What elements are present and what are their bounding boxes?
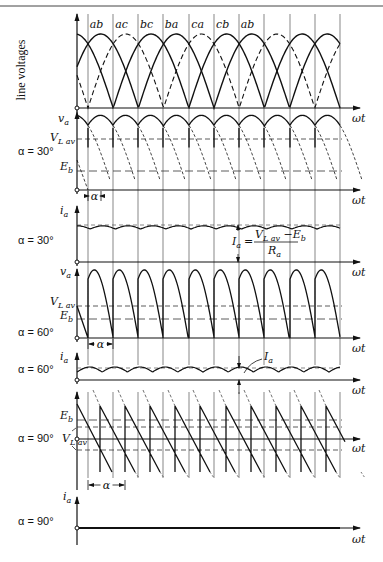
- formula-lhs: Ia: [231, 235, 241, 250]
- va-alpha-30-panel: ωtvaVL avEbα = 30°α: [18, 112, 366, 207]
- eb-label: Eb: [59, 409, 73, 424]
- ia-alpha-60-panel: ωtiaα = 60°Ia: [18, 350, 366, 397]
- formula-numerator: VL av −Eb: [255, 228, 306, 243]
- alpha-30-label: α = 30°: [18, 145, 54, 157]
- va90-dashed-lead: [193, 390, 200, 406]
- alpha-60-marker: α: [97, 338, 105, 351]
- origin-dot: [75, 378, 79, 382]
- va90-dashed-lead: [93, 390, 100, 406]
- va90-dashed-lead: [143, 390, 150, 406]
- formula-equals: =: [244, 235, 253, 248]
- va90-dashed-lead: [168, 390, 175, 406]
- va30-dashed-tail: [214, 125, 236, 180]
- origin-dot: [75, 106, 79, 110]
- alpha-90-label: α = 90°: [18, 432, 54, 444]
- alpha-30-marker: α: [91, 190, 99, 203]
- va90-dashed-lead: [244, 390, 251, 406]
- line-voltage-curve: [77, 34, 340, 108]
- ia-label: ia: [60, 350, 69, 365]
- va90-dashed-lead: [319, 390, 326, 406]
- vlav-label: VL av: [50, 295, 76, 310]
- converter-waveform-figure: ωtline voltagesabacbcbacacbab ωtvaVL avE…: [0, 0, 383, 562]
- waveform-svg: ωtline voltagesabacbcbacacbab ωtvaVL avE…: [0, 0, 383, 562]
- va90-dashed-lead: [219, 390, 226, 406]
- va90-dashed-lead: [118, 390, 125, 406]
- va90-dashed-lead: [294, 390, 301, 406]
- phase-label-ab: ab: [241, 18, 255, 31]
- vlav-label: VL av: [50, 131, 76, 146]
- phase-label-ba: ba: [165, 18, 179, 31]
- va90-dashed-tail: [235, 472, 239, 478]
- omega-t-label: ωt: [352, 112, 366, 125]
- formula-denominator: Ra: [267, 244, 281, 259]
- va90-dashed-tail: [210, 472, 214, 478]
- origin-dot: [75, 526, 79, 530]
- va-alpha-90-panel: ωtEbα = 90°VL avα: [18, 390, 366, 492]
- va90-dashed-tail: [261, 472, 265, 478]
- alpha-60-label: α = 60°: [18, 326, 54, 338]
- ia-leader: [244, 359, 262, 373]
- va30-dashed-tail: [315, 125, 337, 180]
- ia-label: ia: [60, 204, 69, 219]
- va90-dashed-lead: [269, 390, 276, 406]
- omega-t-label: ωt: [352, 266, 366, 279]
- origin-dot: [75, 188, 79, 192]
- ia-alpha-30-panel: ωtiaα = 30°Ia=VL av −EbRa: [18, 204, 366, 279]
- alpha-30-ia-label: α = 30°: [18, 234, 54, 246]
- omega-t-label: ωt: [352, 533, 366, 546]
- alpha-60-ia-label: α = 60°: [18, 363, 54, 375]
- alpha-90-marker: α: [103, 479, 111, 492]
- ia-alpha-90-panel: ωtiaα = 90°: [18, 490, 366, 546]
- omega-t-label: ωt: [352, 342, 366, 355]
- phase-label-ab: ab: [90, 18, 104, 31]
- va30-dashed-tail: [340, 125, 362, 180]
- vlav-leader-up: [72, 428, 76, 431]
- omega-t-label: ωt: [352, 442, 366, 455]
- va90-waveform: [77, 404, 345, 472]
- va30-dashed-tail: [264, 125, 286, 180]
- ia-label: ia: [63, 490, 72, 505]
- phase-label-ca: ca: [191, 18, 204, 31]
- line-voltages-panel: ωtline voltagesabacbcbacacbab: [14, 14, 366, 125]
- va60-waveform: [77, 270, 340, 338]
- va30-dashed-tail: [290, 125, 312, 180]
- line-voltages-label: line voltages: [14, 39, 28, 100]
- origin-dot: [75, 260, 79, 264]
- va30-initial-tail: [77, 160, 88, 190]
- va-alpha-60-panel: ωtvaVL avEbα = 60°α: [18, 265, 366, 355]
- eb-label: Eb: [59, 309, 73, 324]
- vlav-label: VL av: [62, 432, 88, 447]
- va30-dashed-tail: [138, 125, 160, 180]
- phase-label-cb: cb: [216, 18, 229, 31]
- va90-dashed-tail: [336, 472, 340, 478]
- va90-dashed-tail: [135, 472, 139, 478]
- va30-dashed-tail: [239, 125, 261, 180]
- eb-label: Eb: [59, 160, 73, 175]
- va-label: va: [58, 112, 69, 127]
- omega-t-label: ωt: [352, 194, 366, 207]
- alpha-90-ia-label: α = 90°: [18, 515, 54, 527]
- va-label: va: [60, 265, 71, 280]
- phase-label-bc: bc: [140, 18, 153, 31]
- va30-dashed-tail: [163, 125, 185, 180]
- va30-dashed-tail: [113, 125, 135, 180]
- va90-dashed-tail: [160, 472, 164, 478]
- origin-dot: [75, 336, 79, 340]
- va90-dashed-tail: [185, 472, 189, 478]
- va90-dashed-tail: [311, 472, 315, 478]
- omega-t-label: ωt: [352, 384, 366, 397]
- va90-dashed-tail: [361, 472, 365, 478]
- phase-label-ac: ac: [115, 18, 128, 31]
- ia60-ripple: [77, 367, 340, 372]
- ia-annotation: Ia: [263, 350, 273, 365]
- va30-dashed-tail: [88, 125, 110, 180]
- va90-dashed-tail: [286, 472, 290, 478]
- va30-dashed-tail: [189, 125, 211, 180]
